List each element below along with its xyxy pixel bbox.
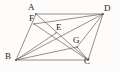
geometry-figure: ADBCFEG (0, 0, 120, 72)
label-g: G (73, 36, 80, 45)
segment-ac (36, 14, 88, 60)
label-e: E (56, 23, 62, 32)
geometry-canvas (0, 0, 120, 72)
point-a (35, 13, 37, 15)
label-f: F (29, 14, 34, 23)
segment-fd (34, 14, 103, 24)
point-b (15, 59, 17, 61)
point-d (102, 13, 104, 15)
label-c: C (84, 57, 90, 66)
point-f (33, 23, 34, 24)
segment-dg (77, 14, 103, 47)
point-e (55, 32, 56, 33)
label-a: A (28, 3, 35, 12)
point-g (76, 46, 77, 47)
label-d: D (104, 4, 111, 13)
label-b: B (5, 52, 11, 61)
